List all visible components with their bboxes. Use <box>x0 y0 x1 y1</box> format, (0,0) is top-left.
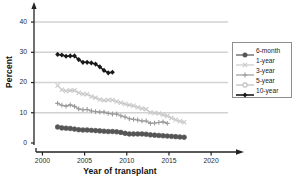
filled-circle-marker <box>114 130 119 135</box>
legend-label: 1-year <box>255 56 275 66</box>
plus-marker <box>85 107 90 112</box>
filled-circle-marker <box>152 133 157 138</box>
legend-label: 6-month <box>255 46 280 56</box>
plus-marker <box>235 66 255 76</box>
x-axis-arrow <box>236 149 244 155</box>
y-tick-label: 10 <box>11 109 27 116</box>
x-axis-title: Year of transplant <box>0 166 240 176</box>
filled-circle-marker <box>85 128 90 133</box>
filled-circle-marker <box>102 129 107 134</box>
plus-marker <box>127 116 132 121</box>
x-tick-label: 2005 <box>72 157 98 164</box>
filled-circle-marker <box>97 129 102 134</box>
filled-circle-marker <box>127 132 132 137</box>
filled-diamond-marker <box>59 52 64 57</box>
filled-diamond-marker <box>64 54 69 59</box>
plus-marker <box>131 117 136 122</box>
plus-marker <box>55 101 60 106</box>
plus-marker <box>165 121 170 126</box>
filled-circle-marker <box>161 133 166 138</box>
filled-diamond-marker <box>110 70 115 75</box>
filled-circle-marker <box>110 129 115 134</box>
legend-item-5-year[interactable]: 5-year <box>235 76 289 86</box>
x-cross-marker <box>56 83 60 87</box>
legend-label: 3-year <box>255 66 275 76</box>
plus-marker <box>135 118 140 123</box>
filled-circle-marker <box>119 130 124 135</box>
filled-circle-marker <box>173 134 178 139</box>
plus-marker <box>152 121 157 126</box>
legend-item-6-month[interactable]: 6-month <box>235 46 289 56</box>
filled-circle-marker <box>178 135 183 140</box>
filled-circle-marker <box>68 126 73 131</box>
legend-label: 5-year <box>255 76 275 86</box>
plus-marker <box>161 119 166 124</box>
chart-figure: 010203040 20002005201020152020 Percent Y… <box>0 0 298 179</box>
filled-circle-marker <box>60 126 65 131</box>
filled-circle-marker <box>182 135 187 140</box>
y-tick-label: 0 <box>11 139 27 146</box>
filled-circle-marker <box>106 129 111 134</box>
legend-label: 10-year <box>255 86 278 96</box>
plus-marker <box>64 104 69 109</box>
filled-circle-marker <box>76 127 81 132</box>
plus-marker <box>68 103 73 108</box>
filled-circle-marker <box>55 125 60 130</box>
legend-item-3-year[interactable]: 3-year <box>235 66 289 76</box>
plus-marker <box>59 103 64 108</box>
filled-circle-marker <box>81 128 86 133</box>
filled-diamond-marker <box>243 92 248 97</box>
filled-circle-marker <box>235 46 255 56</box>
filled-circle-marker <box>64 126 69 131</box>
plus-marker <box>97 110 102 115</box>
plus-marker <box>81 107 86 112</box>
filled-circle-marker <box>72 127 77 132</box>
filled-circle-marker <box>135 132 140 137</box>
x-tick-label: 2020 <box>198 157 224 164</box>
plus-marker <box>106 111 111 116</box>
x-tick-label: 2000 <box>29 157 55 164</box>
data-series-group <box>55 52 186 140</box>
x-cross-marker <box>169 116 173 120</box>
plus-marker <box>140 119 145 124</box>
filled-circle-marker <box>144 132 149 137</box>
x-tick-label: 2010 <box>114 157 140 164</box>
filled-diamond-marker <box>85 60 90 65</box>
filled-circle-marker <box>157 133 162 138</box>
gridlines-group <box>34 22 228 113</box>
chart-legend: 6-month1-year3-year5-year10-year <box>232 42 292 98</box>
plus-marker <box>148 121 153 126</box>
plus-marker <box>144 119 149 124</box>
filled-circle-marker <box>131 132 136 137</box>
series-6-month <box>55 125 186 140</box>
filled-diamond-marker <box>235 86 255 96</box>
plus-marker <box>72 104 77 109</box>
filled-circle-marker <box>93 128 98 133</box>
filled-circle-marker <box>89 128 94 133</box>
filled-circle-marker <box>123 131 128 136</box>
legend-item-10-year[interactable]: 10-year <box>235 86 289 96</box>
plus-marker <box>123 115 128 120</box>
filled-circle-marker <box>165 134 170 139</box>
y-axis-title: Percent <box>4 46 14 98</box>
legend-item-1-year[interactable]: 1-year <box>235 56 289 66</box>
filled-diamond-marker <box>89 60 94 65</box>
filled-circle-marker <box>148 133 153 138</box>
plus-marker <box>102 110 107 115</box>
plus-marker <box>76 106 81 111</box>
x-tick-label: 2015 <box>156 157 182 164</box>
y-tick-label: 40 <box>11 18 27 25</box>
filled-circle-marker <box>140 132 145 137</box>
filled-diamond-marker <box>68 53 73 58</box>
filled-circle-marker <box>169 134 174 139</box>
x-cross-marker <box>235 56 255 66</box>
y-axis-arrow <box>31 2 36 9</box>
plus-marker <box>156 120 161 125</box>
plus-marker <box>118 113 123 118</box>
series-10-year <box>55 52 115 76</box>
open-circle-marker <box>235 76 255 86</box>
